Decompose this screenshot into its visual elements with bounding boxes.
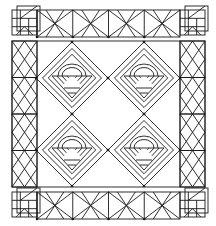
basket-block-3	[35, 113, 110, 188]
center-panel	[12, 41, 205, 187]
basket-block-1	[35, 41, 110, 116]
bottom-sashing-strip	[36, 192, 180, 220]
quilt-pattern-diagram	[0, 0, 216, 226]
quilt-svg	[0, 0, 216, 226]
corner-block-bottom-left	[12, 188, 40, 217]
corner-block-top-right	[180, 6, 208, 35]
right-border-column	[180, 41, 205, 187]
basket-block-4	[107, 113, 182, 188]
basket-block-2	[107, 41, 182, 116]
corner-block-bottom-right	[180, 188, 208, 217]
left-border-column	[12, 41, 37, 187]
corner-block-top-left	[12, 6, 40, 35]
top-sashing-strip	[36, 10, 180, 38]
